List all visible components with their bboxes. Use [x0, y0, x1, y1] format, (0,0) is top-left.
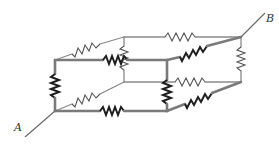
resistor-back-top — [124, 33, 241, 41]
resistor-depth-bottom-right — [167, 82, 241, 111]
resistor-front-top — [55, 56, 167, 64]
terminal-label-a: A — [13, 121, 22, 134]
terminal-label-b: B — [265, 12, 274, 25]
lead-b — [241, 13, 265, 37]
resistor-front-right — [163, 60, 171, 111]
resistor-depth-top-left — [55, 37, 124, 60]
resistor-front-left — [51, 60, 59, 111]
resistor-depth-top-right — [167, 37, 241, 61]
resistor-back-right — [237, 37, 245, 82]
resistor-cube-diagram: A B — [0, 0, 279, 149]
resistor-back-bottom — [124, 78, 241, 86]
resistor-depth-bottom-left — [55, 82, 124, 111]
resistor-front-bottom — [55, 107, 167, 115]
lead-a — [25, 111, 55, 137]
